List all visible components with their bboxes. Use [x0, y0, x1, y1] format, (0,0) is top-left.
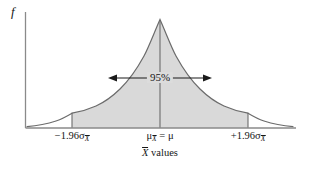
x-tick-label-upper-bound: +1.96σX — [231, 131, 266, 143]
tick-left-coefficient: 1.96 — [61, 130, 79, 141]
tick-right-subscript: X — [261, 135, 266, 143]
x-tick-label-mean: μX = μ — [146, 131, 173, 143]
confidence-interval-label: 95% — [147, 72, 173, 83]
curve-left-tail — [27, 113, 72, 126]
normal-distribution-figure: f 95% −1.96σX μX = μ +1.96σX X values — [0, 0, 314, 169]
y-axis-label: f — [11, 5, 15, 18]
x-axis-title-text: values — [148, 147, 177, 158]
interval-arrowhead-left — [108, 75, 117, 82]
tick-mid-equals: = — [157, 130, 168, 141]
curve-right-tail — [248, 113, 293, 126]
tick-mid-subscript: X — [152, 135, 157, 143]
x-tick-label-lower-bound: −1.96σX — [55, 131, 90, 143]
tick-mid-mu2: μ — [168, 130, 174, 141]
interval-arrowhead-right — [203, 75, 212, 82]
x-axis-title-xbar: X — [142, 148, 148, 159]
x-axis-title: X values — [142, 148, 178, 159]
tick-left-subscript: X — [85, 135, 90, 143]
distribution-chart-canvas — [0, 0, 314, 169]
tick-right-coefficient: 1.96 — [237, 130, 255, 141]
